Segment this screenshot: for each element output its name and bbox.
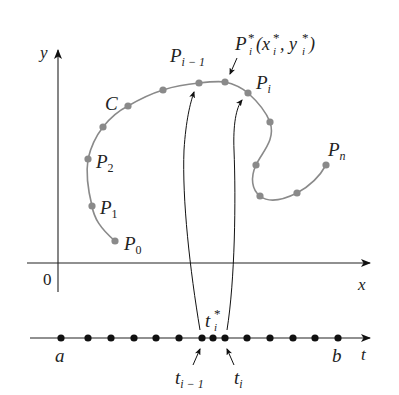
t-point [289,334,296,341]
svg-text:i: i [249,45,252,57]
point-p-i [244,89,251,96]
parametric-curve-diagram: y x 0 C P2 P1 P0 Pi − 1 [0,0,399,395]
t-point [243,334,250,341]
label-p1: P1 [99,197,118,221]
svg-text:i: i [302,45,305,57]
svg-text:t: t [205,310,211,331]
t-point [84,334,91,341]
point-p0 [111,237,118,244]
svg-text:*: * [214,306,221,321]
curve-labels: C P2 P1 P0 Pi − 1 Pi Pn P * i (x * i , y [95,30,346,257]
y-axis-label: y [38,43,48,62]
label-t-i: ti [234,367,243,391]
curve-point [252,161,259,168]
origin-label: 0 [43,270,52,289]
curve-label-c: C [105,93,118,114]
label-t-star: t * i [205,306,221,333]
curve-points [84,78,329,244]
curve-point [293,189,300,196]
x-axis-label: x [357,275,366,294]
label-t-i-minus-1: ti − 1 [175,367,204,391]
curve-c [87,82,326,241]
t-axis: a b t t * i ti − 1 ti [30,306,370,391]
svg-text:*: * [302,30,309,45]
t-point-b [334,334,341,341]
svg-text:*: * [273,30,280,45]
t-axis-label: t [361,345,367,364]
label-p-i: Pi [255,72,271,96]
point-p-n [322,161,329,168]
svg-text:i: i [273,45,276,57]
t-point [266,334,273,341]
t-i-minus-1-pointer-arrow [193,349,200,365]
t-point [311,334,318,341]
t-label-b: b [332,345,342,366]
t-point-star [209,334,216,341]
t-point-i-minus-1 [198,334,205,341]
label-p-n: Pn [327,139,346,163]
arrow-t-i-minus-1-to-p-i-minus-1 [184,92,200,330]
point-p-i-minus-1 [195,79,202,86]
curve-point [266,118,273,125]
t-point [152,334,159,341]
point-p1 [88,202,95,209]
label-p-i-minus-1: Pi − 1 [169,45,205,69]
label-p-star: P * i (x * i , y * i ) [234,30,315,57]
point-p-star [221,78,228,85]
svg-text:): ) [308,34,315,55]
t-point-i [221,334,228,341]
curve-point [159,86,166,93]
svg-text:(x: (x [256,34,270,55]
t-point [175,334,182,341]
svg-text:*: * [248,30,255,45]
mapping-arrows [184,92,242,330]
t-point [107,334,114,341]
t-label-a: a [55,345,65,366]
label-p2: P2 [95,151,114,175]
svg-text:, y: , y [280,34,297,54]
svg-text:i: i [214,321,217,333]
p-star-pointer-arrow [230,58,237,74]
curve-point [99,123,106,130]
t-i-pointer-arrow [227,349,234,365]
svg-text:P: P [234,33,247,54]
t-point [130,334,137,341]
curve-point [256,192,263,199]
point-p2 [84,155,91,162]
arrow-t-i-to-p-i [227,100,242,330]
label-p0: P0 [123,233,142,257]
t-point-a [57,334,64,341]
curve-point [124,102,131,109]
